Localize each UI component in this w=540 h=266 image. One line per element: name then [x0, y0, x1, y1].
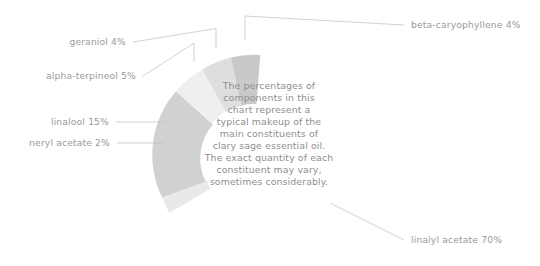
annotation-line-7: The exact quantity of each: [204, 152, 333, 163]
label-alpha-terpineol: alpha-terpineol 5%: [46, 70, 136, 81]
label-beta-caryophyllene: beta-caryophyllene 4%: [411, 19, 521, 30]
annotation-line-2: components in this: [223, 92, 314, 103]
leader-beta-caryophyllene: [245, 16, 404, 40]
chart-canvas: geraniol 4% alpha-terpineol 5% linalool …: [0, 0, 540, 266]
donut-chart: geraniol 4% alpha-terpineol 5% linalool …: [0, 0, 540, 266]
annotation-line-4: typical makeup of the: [217, 116, 322, 127]
annotation-line-5: main constituents of: [220, 128, 319, 139]
annotation-line-3: chart represent a: [228, 104, 311, 115]
center-annotation: The percentages of components in this ch…: [204, 80, 333, 187]
annotation-line-9: sometimes considerably.: [210, 176, 328, 187]
label-neryl-acetate: neryl acetate 2%: [29, 137, 110, 148]
label-geraniol: geraniol 4%: [69, 36, 126, 47]
label-linalool: linalool 15%: [51, 116, 109, 127]
leader-linalyl-acetate: [330, 203, 404, 240]
annotation-line-8: constituent may vary,: [216, 164, 321, 175]
annotation-line-1: The percentages of: [222, 80, 316, 91]
label-linalyl-acetate: linalyl acetate 70%: [411, 234, 502, 245]
annotation-line-6: clary sage essential oil.: [213, 140, 326, 151]
